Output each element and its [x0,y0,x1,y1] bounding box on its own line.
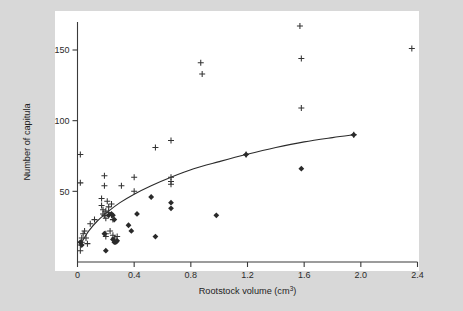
x-tick-label-0.4: 0.4 [128,270,141,280]
data-point-plus-15 [100,211,106,217]
data-point-plus-46 [298,105,304,111]
data-point-plus-8 [83,235,89,241]
data-point-plus-44 [297,23,303,29]
data-point-plus-41 [198,60,204,66]
y-tick-label-50: 50 [59,187,69,197]
axis-titles-group: Number of capitulaRootstock volume (cm3) [22,103,296,296]
data-point-diamond-18 [168,205,174,211]
data-point-plus-13 [99,202,105,208]
data-point-plus-34 [131,174,137,180]
x-tick-label-2.4: 2.4 [411,270,424,280]
tick-labels-group: 5010015000.40.81.21.62.02.4 [54,45,423,280]
data-point-diamond-2 [102,231,108,237]
fit-curve-path [82,135,354,242]
data-point-plus-5 [77,180,83,186]
data-point-diamond-20 [243,152,249,158]
x-tick-label-2.0: 2.0 [355,270,368,280]
data-point-plus-12 [99,195,105,201]
x-tick-label-1.2: 1.2 [241,270,254,280]
data-point-plus-17 [101,183,107,189]
data-point-plus-36 [152,145,158,151]
data-point-plus-48 [409,46,415,52]
data-point-diamond-13 [128,228,134,234]
data-point-diamond-15 [148,194,154,200]
scatter-plot: 5010015000.40.81.21.62.02.4 Number of ca… [0,0,463,311]
diamond-marker-series [77,132,356,254]
y-tick-label-150: 150 [54,45,69,55]
plus-marker-series [77,23,415,254]
data-point-diamond-22 [351,132,357,138]
data-point-diamond-12 [126,222,132,228]
data-point-plus-26 [107,228,113,234]
data-point-diamond-14 [134,211,140,217]
data-point-diamond-17 [168,200,174,206]
fitted-curve [82,135,354,242]
data-point-diamond-3 [103,248,109,254]
x-tick-label-0.8: 0.8 [185,270,198,280]
y-tick-label-100: 100 [54,116,69,126]
data-point-diamond-16 [153,234,159,240]
data-point-plus-0 [77,248,83,254]
figure-container: 5010015000.40.81.21.62.02.4 Number of ca… [0,0,463,311]
data-point-plus-23 [104,198,110,204]
y-axis-title: Number of capitula [22,103,32,181]
data-point-plus-7 [82,228,88,234]
x-tick-label-1.6: 1.6 [298,270,311,280]
x-axis-title: Rootstock volume (cm3) [199,285,297,296]
ticks-group [73,50,418,267]
data-point-plus-37 [168,137,174,143]
data-point-plus-6 [77,152,83,158]
x-tick-label-0: 0 [75,270,80,280]
data-point-plus-40 [168,181,174,187]
data-point-plus-45 [298,55,304,61]
data-point-plus-42 [199,71,205,77]
data-point-plus-9 [84,241,90,247]
data-point-plus-33 [118,183,124,189]
data-point-plus-16 [101,173,107,179]
data-point-diamond-19 [213,212,219,218]
data-point-plus-27 [109,201,115,207]
data-point-diamond-21 [298,166,304,172]
